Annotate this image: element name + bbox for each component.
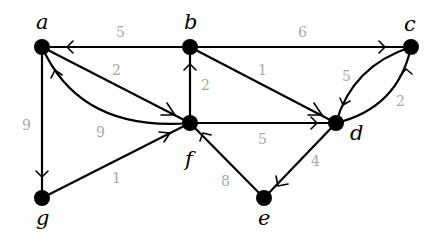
edge-d-e (264, 123, 336, 198)
weight-e-f: 8 (221, 173, 230, 189)
edge-a-f (42, 47, 190, 123)
node-e (256, 190, 272, 206)
edge-b-c (190, 41, 411, 53)
node-a (34, 39, 50, 55)
node-c (403, 39, 419, 55)
weight-f-a: 9 (96, 124, 105, 140)
weight-a-g: 9 (22, 117, 31, 133)
weight-b-a: 5 (116, 24, 125, 40)
node-label-a: a (36, 10, 49, 34)
weight-d-c: 2 (396, 93, 405, 109)
weight-f-b: 2 (201, 77, 210, 93)
node-label-b: b (184, 10, 197, 34)
graph-canvas: 5 6 2 2 1 5 2 9 9 1 5 4 8 a b c d e f g (0, 0, 440, 239)
weight-c-d: 5 (342, 68, 351, 84)
node-label-e: e (258, 206, 270, 230)
edge-c-d (336, 47, 411, 123)
weight-d-e: 4 (311, 153, 320, 169)
edge-g-f (42, 123, 190, 198)
edge-b-d (190, 47, 336, 123)
node-g (34, 190, 50, 206)
edge-a-g (36, 47, 48, 198)
edge-f-d (190, 117, 336, 129)
node-f (182, 115, 198, 131)
edge-f-b (184, 47, 196, 123)
node-d (328, 115, 344, 131)
edge-d-c (336, 47, 412, 123)
node-label-c: c (404, 12, 416, 36)
weight-g-f: 1 (112, 170, 121, 186)
weight-a-f: 2 (112, 62, 121, 78)
edge-b-a (42, 41, 190, 53)
weight-b-c: 6 (298, 24, 307, 40)
node-label-g: g (36, 206, 49, 230)
weight-b-d: 1 (258, 62, 267, 78)
weight-f-d: 5 (258, 131, 267, 147)
node-label-f: f (183, 147, 196, 171)
node-label-d: d (350, 121, 363, 145)
node-b (182, 39, 198, 55)
